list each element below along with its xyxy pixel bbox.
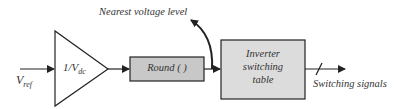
feedback-label: Nearest voltage level — [99, 7, 187, 18]
gain-label: 1/Vdc — [63, 62, 86, 76]
table-line-3: table — [221, 73, 305, 86]
table-line-2: switching — [221, 60, 305, 73]
input-label: Vref — [16, 74, 32, 89]
output-label: Switching signals — [313, 79, 387, 90]
input-subscript: ref — [23, 80, 32, 89]
table-label: Inverter switching table — [221, 47, 305, 86]
table-line-1: Inverter — [221, 47, 305, 60]
round-label: Round ( ) — [130, 63, 204, 74]
gain-text: 1/V — [63, 61, 78, 73]
diagram-canvas — [0, 0, 402, 109]
gain-subscript: dc — [78, 67, 86, 76]
